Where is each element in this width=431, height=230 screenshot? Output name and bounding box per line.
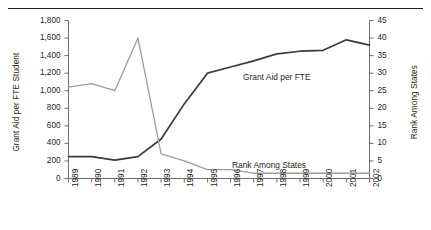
left-tick-label: 1,600 bbox=[27, 34, 61, 42]
chart-figure: Grant Aid per FTE Student Rank Among Sta… bbox=[0, 0, 431, 230]
x-tick-label: 1996 bbox=[234, 168, 242, 186]
right-tick-label: 45 bbox=[378, 17, 408, 25]
left-tick-label: 200 bbox=[27, 157, 61, 165]
left-tick-label: 800 bbox=[27, 104, 61, 112]
right-tick-label: 35 bbox=[378, 52, 408, 60]
right-tick-label: 5 bbox=[378, 157, 408, 165]
series-annotation-rank: Rank Among States bbox=[232, 161, 306, 169]
series-paths bbox=[69, 38, 370, 173]
right-axis-title: Rank Among States bbox=[411, 42, 419, 162]
series-annotation-grant-aid: Grant Aid per FTE bbox=[243, 73, 311, 81]
x-tick-label: 1990 bbox=[95, 168, 103, 186]
x-tick-label: 1998 bbox=[280, 168, 288, 186]
right-tick-label: 30 bbox=[378, 69, 408, 77]
left-tick-label: 1,800 bbox=[27, 17, 61, 25]
x-tick-label: 1994 bbox=[187, 168, 195, 186]
right-tick-label: 20 bbox=[378, 104, 408, 112]
x-tick-label: 1997 bbox=[257, 168, 265, 186]
x-tick-label: 1992 bbox=[141, 168, 149, 186]
left-tick-label: 1,000 bbox=[27, 87, 61, 95]
axis-lines bbox=[65, 21, 374, 183]
x-tick-label: 2000 bbox=[326, 168, 334, 186]
left-tick-label: 400 bbox=[27, 139, 61, 147]
right-tick-label: 15 bbox=[378, 122, 408, 130]
x-tick-label: 1999 bbox=[303, 168, 311, 186]
right-tick-label: 10 bbox=[378, 139, 408, 147]
left-tick-label: 1,200 bbox=[27, 69, 61, 77]
right-tick-label: 25 bbox=[378, 87, 408, 95]
left-tick-label: 0 bbox=[27, 175, 61, 183]
top-rule bbox=[8, 8, 423, 9]
x-tick-label: 1989 bbox=[72, 168, 80, 186]
x-tick-label: 1993 bbox=[164, 168, 172, 186]
x-tick-label: 2001 bbox=[350, 168, 358, 186]
x-tick-label: 1995 bbox=[211, 168, 219, 186]
x-tick-label: 1991 bbox=[118, 168, 126, 186]
right-tick-label: 40 bbox=[378, 34, 408, 42]
left-axis-title: Grant Aid per FTE Student bbox=[13, 42, 21, 162]
left-tick-label: 600 bbox=[27, 122, 61, 130]
x-tick-label: 2002 bbox=[373, 168, 381, 186]
right-tick-label: 0 bbox=[378, 175, 408, 183]
plot-area bbox=[0, 0, 431, 230]
left-tick-label: 1,400 bbox=[27, 52, 61, 60]
